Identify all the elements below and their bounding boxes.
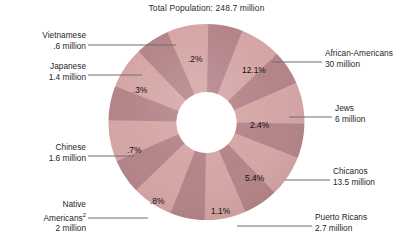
callout-chicanos-name: Chicanos [333,166,413,177]
callout-african-americans-name: African-Americans [325,48,413,59]
pie-chart-figure: Total Population: 248.7 million [0,0,413,243]
callout-puerto-ricans: Puerto Ricans 2.7 million [315,212,413,233]
callout-chinese-amount: 1.6 million [0,153,86,164]
callout-jews-amount: 6 million [335,114,413,125]
callout-puerto-ricans-amount: 2.7 million [315,223,413,234]
data-label-vietnamese: .2% [188,54,202,64]
callout-jews: Jews 6 million [335,103,413,124]
footnote-marker: 2 [83,212,86,218]
data-label-african-americans: 12.1% [242,65,266,75]
callout-african-americans: African-Americans 30 million [325,48,413,69]
donut-hole [177,92,237,152]
callout-vietnamese-name: Vietnamese [0,30,86,41]
callout-chicanos: Chicanos 13.5 million [333,166,413,187]
callout-jews-name: Jews [335,103,413,114]
callout-native-americans-name: Native [0,199,86,210]
callout-chinese: Chinese 1.6 million [0,142,86,163]
callout-japanese-name: Japanese [0,61,86,72]
data-label-chinese: .7% [127,145,141,155]
data-label-chicanos: 5.4% [245,173,264,183]
data-label-puerto-ricans: 1.1% [211,206,230,216]
callout-japanese-amount: 1.4 million [0,72,86,83]
callout-vietnamese-amount: .6 million [0,41,86,52]
callout-chicanos-amount: 13.5 million [333,177,413,188]
callout-native-americans-name2: Americans2 [0,210,86,223]
callout-japanese: Japanese 1.4 million [0,61,86,82]
data-label-japanese: .3% [133,85,147,95]
callout-native-americans-amount: 2 million [0,223,86,234]
callout-native-americans: Native Americans2 2 million [0,199,86,233]
data-label-jews: 2.4% [250,120,269,130]
data-label-native-americans: .8% [150,196,164,206]
callout-african-americans-amount: 30 million [325,59,413,70]
callout-chinese-name: Chinese [0,142,86,153]
callout-vietnamese: Vietnamese .6 million [0,30,86,51]
callout-puerto-ricans-name: Puerto Ricans [315,212,413,223]
